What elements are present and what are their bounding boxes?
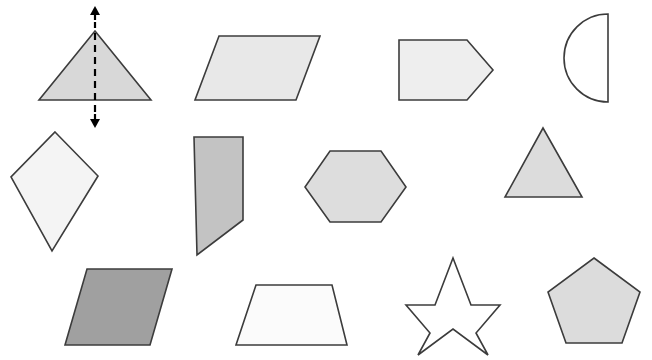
shape-row-2 (11, 128, 582, 255)
pentagon-arrow-right[interactable] (399, 40, 493, 100)
right-trapezoid[interactable] (194, 137, 243, 255)
parallelogram-dark[interactable] (65, 269, 172, 345)
shape-row-1 (39, 6, 608, 128)
kite[interactable] (11, 132, 98, 251)
shapes-worksheet (0, 0, 652, 360)
shapes-canvas (0, 0, 652, 360)
pentagon-regular[interactable] (548, 258, 640, 343)
semicircle[interactable] (564, 14, 608, 102)
parallelogram-wide[interactable] (195, 36, 320, 100)
isosceles-triangle[interactable] (39, 31, 151, 100)
isosceles-triangle-with-line-of-symmetry[interactable] (39, 6, 151, 128)
equilateral-triangle[interactable] (505, 128, 582, 197)
five-pointed-star[interactable] (406, 258, 500, 355)
shape-row-3 (65, 258, 640, 355)
arrow-up-icon (90, 6, 100, 15)
arrow-down-icon (90, 119, 100, 128)
hexagon[interactable] (305, 151, 406, 222)
trapezoid-isosceles[interactable] (236, 285, 347, 345)
